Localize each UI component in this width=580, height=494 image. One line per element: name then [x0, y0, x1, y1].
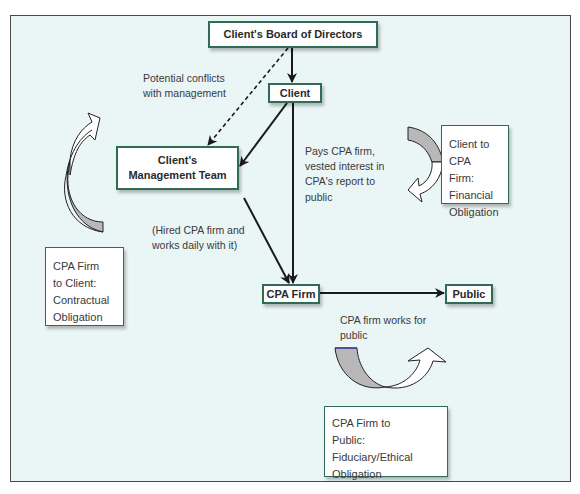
- note1-line4: Obligation: [449, 204, 501, 221]
- note3-line4: Obligation: [332, 466, 440, 483]
- note1-line3: Financial: [449, 187, 501, 204]
- works-line1: CPA firm works for: [340, 313, 426, 328]
- note2-line2: to Client:: [53, 275, 116, 292]
- client-to-cpa-note: Client to CPA Firm: Financial Obligation: [441, 125, 509, 204]
- note2-line4: Obligation: [53, 309, 116, 326]
- note2-line1: CPA Firm: [53, 258, 116, 275]
- curved-arrow-up-icon: [65, 113, 103, 232]
- hired-line1: (Hired CPA firm and: [152, 223, 245, 238]
- curved-arrow-u-icon: [335, 348, 446, 388]
- cpa-firm-node: CPA Firm: [262, 284, 320, 304]
- public-node: Public: [445, 284, 493, 304]
- works-for-public-label: CPA firm works for public: [340, 313, 426, 343]
- edge-client-management: [240, 103, 287, 166]
- curved-arrow-down-icon: [408, 127, 443, 202]
- hired-line2: works daily with it): [152, 238, 245, 253]
- hired-label: (Hired CPA firm and works daily with it): [152, 223, 245, 253]
- cpa-to-client-note: CPA Firm to Client: Contractual Obligati…: [45, 247, 124, 326]
- note3-line2: Public:: [332, 432, 440, 449]
- cpa-firm-label: CPA Firm: [267, 287, 316, 302]
- pays-line4: public: [305, 190, 384, 205]
- note2-line3: Contractual: [53, 292, 116, 309]
- management-label-line2: Management Team: [128, 168, 226, 183]
- board-of-directors-node: Client's Board of Directors: [208, 21, 378, 48]
- note1-line1: Client to CPA: [449, 136, 501, 170]
- note3-line3: Fiduciary/Ethical: [332, 449, 440, 466]
- client-label: Client: [280, 86, 311, 101]
- management-label-line1: Client's: [158, 153, 197, 168]
- conflicts-line1: Potential conflicts: [143, 71, 226, 86]
- board-of-directors-label: Client's Board of Directors: [224, 27, 363, 42]
- management-team-node: Client's Management Team: [116, 146, 239, 190]
- note3-line1: CPA Firm to: [332, 415, 440, 432]
- pays-label: Pays CPA firm, vested interest in CPA's …: [305, 144, 384, 205]
- pays-line1: Pays CPA firm,: [305, 144, 384, 159]
- conflicts-label: Potential conflicts with management: [143, 71, 226, 101]
- pays-line3: CPA's report to: [305, 174, 384, 189]
- note1-line2: Firm:: [449, 170, 501, 187]
- cpa-to-public-note: CPA Firm to Public: Fiduciary/Ethical Ob…: [324, 406, 448, 477]
- client-node: Client: [268, 83, 322, 103]
- works-line2: public: [340, 328, 426, 343]
- edge-management-cpa: [244, 198, 289, 283]
- pays-line2: vested interest in: [305, 159, 384, 174]
- conflicts-line2: with management: [143, 86, 226, 101]
- public-label: Public: [452, 287, 485, 302]
